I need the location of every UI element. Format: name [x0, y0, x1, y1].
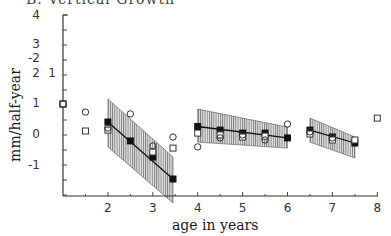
filled-square-marker	[284, 134, 291, 141]
open-circle-marker	[195, 144, 201, 150]
y-tick-label: 0	[32, 127, 40, 141]
open-square-marker	[352, 137, 358, 143]
open-square-marker	[374, 115, 380, 121]
y-tick-label-inner: 1	[48, 66, 56, 80]
y-tick-label: -1	[28, 158, 40, 172]
open-square-marker	[150, 149, 156, 155]
y-tick-label: 4	[32, 8, 40, 22]
x-tick-label: 3	[149, 201, 157, 215]
open-square-marker	[195, 130, 201, 136]
x-tick-label: 4	[194, 201, 202, 215]
open-circle-marker	[284, 121, 290, 127]
y-tick-label: -2	[28, 51, 40, 65]
filled-square-marker	[127, 137, 134, 144]
open-square-marker	[82, 128, 88, 134]
open-square-marker	[170, 145, 176, 151]
open-circle-marker	[170, 134, 176, 140]
open-circle-marker	[127, 111, 133, 117]
filled-square-marker	[194, 123, 201, 130]
x-tick-label: 5	[239, 201, 247, 215]
chart-plot: 234567843-2210-11	[0, 0, 391, 236]
x-tick-label: 2	[104, 201, 112, 215]
y-tick-label: 1	[32, 96, 40, 110]
confidence-bands	[108, 99, 355, 203]
filled-square-marker	[170, 176, 177, 183]
open-circle-marker	[82, 109, 88, 115]
y-tick-label: 3	[32, 37, 40, 51]
x-tick-label: 7	[329, 201, 337, 215]
y-tick-label: 2	[32, 66, 40, 80]
x-tick-label: 6	[284, 201, 292, 215]
x-tick-label: 8	[373, 201, 381, 215]
